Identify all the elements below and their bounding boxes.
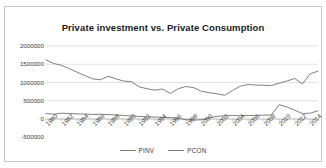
legend-label: PINV: [139, 147, 155, 154]
y-axis-tick-label: 2000000: [0, 42, 44, 49]
y-axis-tick-label: 1500000: [0, 60, 44, 67]
chart-plot-area: [0, 0, 326, 168]
legend-line-swatch: [168, 150, 184, 152]
chart-legend: PINVPCON: [0, 147, 326, 154]
chart-series-lines: [46, 60, 318, 120]
y-axis-tick-label: 500000: [0, 97, 44, 104]
legend-entry-pcon[interactable]: PCON: [168, 147, 206, 154]
series-line-pcon: [46, 60, 318, 95]
legend-label: PCON: [187, 147, 206, 154]
chart-container: Private investment vs. Private Consumpti…: [0, 0, 326, 168]
y-axis-tick-label: 1000000: [0, 79, 44, 86]
y-axis-tick-label: 0: [0, 115, 44, 122]
legend-line-swatch: [120, 150, 136, 152]
y-axis-tick-label: -500000: [0, 133, 44, 140]
legend-entry-pinv[interactable]: PINV: [120, 147, 155, 154]
